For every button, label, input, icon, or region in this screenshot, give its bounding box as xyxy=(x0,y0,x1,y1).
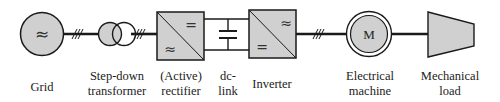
ac-symbol-icon: ≈ xyxy=(280,15,292,31)
grid-source: ≈ xyxy=(21,13,64,56)
label-text: Inverter xyxy=(252,77,292,92)
label-text: Mechanical xyxy=(421,69,479,84)
label-rectifier: (Active) rectifier xyxy=(160,69,202,99)
label-inverter: Inverter xyxy=(252,77,292,92)
label-text: transformer xyxy=(88,84,146,99)
dc-link-capacitor xyxy=(204,19,249,50)
dc-symbol-icon: = xyxy=(256,39,268,55)
label-grid: Grid xyxy=(31,80,54,95)
label-transformer: Step-down transformer xyxy=(88,69,146,99)
electrical-machine: M xyxy=(347,12,392,57)
label-text: dc- xyxy=(218,69,237,84)
label-dc-link: dc- link xyxy=(218,69,237,99)
label-text: link xyxy=(218,84,237,99)
ac-symbol-icon: ≈ xyxy=(35,24,49,44)
label-machine: Electrical machine xyxy=(346,69,394,99)
mechanical-load xyxy=(428,12,474,57)
transformer-symbol xyxy=(99,23,136,46)
label-load: Mechanical load xyxy=(421,69,479,99)
label-text: Grid xyxy=(31,80,54,95)
label-text: machine xyxy=(346,84,394,99)
inverter-block: ≈ = xyxy=(249,10,296,58)
rectifier-block: = ≈ xyxy=(157,12,204,60)
label-text: rectifier xyxy=(160,84,202,99)
label-text: Electrical xyxy=(346,69,394,84)
label-text: Step-down xyxy=(88,69,146,84)
motor-symbol-icon: M xyxy=(363,27,375,42)
label-text: (Active) xyxy=(160,69,202,84)
label-text: load xyxy=(421,84,479,99)
ac-symbol-icon: ≈ xyxy=(164,41,176,57)
dc-symbol-icon: = xyxy=(185,17,197,33)
